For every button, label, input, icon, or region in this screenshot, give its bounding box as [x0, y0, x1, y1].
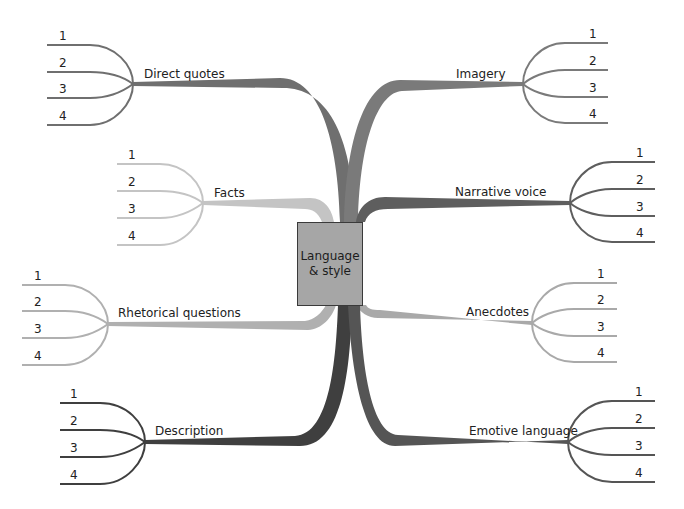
- leaf-number: 3: [70, 441, 78, 455]
- branch-label-facts[interactable]: Facts: [214, 186, 245, 200]
- central-topic-line2: & style: [300, 264, 359, 279]
- leaf-number: 4: [59, 109, 67, 123]
- leaf-number: 4: [128, 229, 136, 243]
- leaf-number: 4: [589, 107, 597, 121]
- leaf-number: 2: [59, 56, 67, 70]
- leaf-number: 3: [589, 81, 597, 95]
- leaf-number: 3: [59, 82, 67, 96]
- leaf-number: 1: [589, 27, 597, 41]
- leaf-number: 2: [636, 173, 644, 187]
- branch-label-anecdotes[interactable]: Anecdotes: [466, 305, 529, 319]
- leaf-number: 1: [597, 267, 605, 281]
- branch-narrative-voice: [356, 197, 570, 222]
- leaf-number: 1: [128, 148, 136, 162]
- leaf-number: 1: [635, 385, 643, 399]
- leaf-number: 3: [636, 200, 644, 214]
- leaf-number: 3: [128, 202, 136, 216]
- leaf-number: 2: [597, 293, 605, 307]
- branch-label-emotive-language[interactable]: Emotive language: [469, 424, 578, 438]
- leaf-number: 4: [635, 466, 643, 480]
- central-topic-box[interactable]: Language & style: [297, 222, 363, 306]
- leaf-number: 2: [589, 54, 597, 68]
- branch-label-direct-quotes[interactable]: Direct quotes: [144, 67, 225, 81]
- leaf-number: 2: [635, 412, 643, 426]
- central-topic-line1: Language: [300, 249, 359, 264]
- branch-label-description[interactable]: Description: [155, 424, 223, 438]
- leaf-number: 1: [34, 269, 42, 283]
- leaf-number: 4: [70, 468, 78, 482]
- branch-label-narrative-voice[interactable]: Narrative voice: [455, 185, 546, 199]
- leaf-number: 1: [636, 146, 644, 160]
- branch-facts: [203, 198, 334, 222]
- leaf-number: 3: [597, 320, 605, 334]
- leaf-number: 3: [34, 322, 42, 336]
- branch-label-rhetorical-questions[interactable]: Rhetorical questions: [118, 306, 241, 320]
- leaf-number: 4: [597, 346, 605, 360]
- leaf-number: 1: [70, 387, 78, 401]
- leaf-number: 4: [636, 226, 644, 240]
- leaf-number: 2: [70, 414, 78, 428]
- leaf-number: 2: [34, 295, 42, 309]
- leaf-number: 4: [34, 349, 42, 363]
- leaf-number: 2: [128, 175, 136, 189]
- leaf-number: 3: [635, 439, 643, 453]
- branch-label-imagery[interactable]: Imagery: [456, 67, 506, 81]
- leaf-number: 1: [59, 29, 67, 43]
